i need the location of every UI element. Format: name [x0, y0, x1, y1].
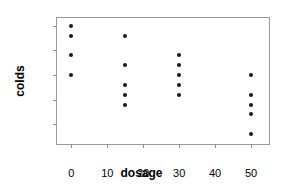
- data-point: [249, 103, 253, 107]
- scatter-plot-figure: colds 5.07.510.012.515.001020304050 dosa…: [0, 0, 283, 188]
- x-axis-tick: [143, 144, 144, 148]
- data-point: [249, 93, 253, 97]
- x-axis-title: dosage: [0, 166, 283, 180]
- data-point: [177, 83, 181, 87]
- data-point: [123, 103, 127, 107]
- data-point: [177, 73, 181, 77]
- y-axis-tick: [53, 50, 57, 51]
- x-axis-tick: [215, 144, 216, 148]
- y-axis-tick: [53, 26, 57, 27]
- data-point: [249, 112, 253, 116]
- data-point: [123, 34, 127, 38]
- y-axis-title: colds: [13, 65, 27, 96]
- x-axis-tick: [179, 144, 180, 148]
- data-point: [177, 93, 181, 97]
- data-point: [177, 53, 181, 57]
- plot-frame: 5.07.510.012.515.001020304050: [56, 17, 270, 145]
- data-point: [69, 73, 73, 77]
- x-axis-tick: [71, 144, 72, 148]
- data-point: [69, 53, 73, 57]
- x-axis-tick: [251, 144, 252, 148]
- x-axis-tick: [107, 144, 108, 148]
- data-point: [177, 63, 181, 67]
- data-point: [69, 24, 73, 28]
- data-point: [249, 132, 253, 136]
- y-axis-tick: [53, 100, 57, 101]
- y-axis-tick: [53, 124, 57, 125]
- y-axis-tick: [53, 75, 57, 76]
- data-point: [123, 63, 127, 67]
- data-point: [69, 34, 73, 38]
- data-point: [123, 93, 127, 97]
- data-point: [123, 83, 127, 87]
- plot-area: 5.07.510.012.515.001020304050: [57, 18, 269, 144]
- data-point: [249, 73, 253, 77]
